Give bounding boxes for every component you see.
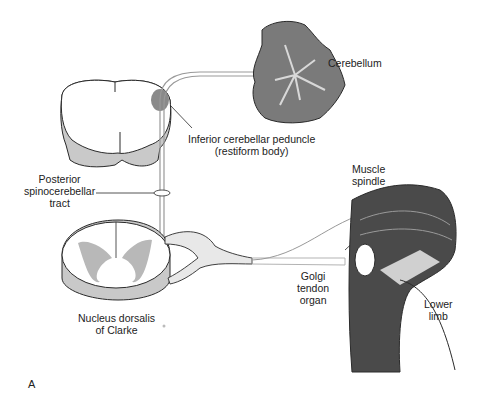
spinal-cord-section [62,220,170,300]
medulla-section [61,80,171,167]
cerebellum [253,21,345,122]
label-nucleus-dorsalis: Nucleus dorsalis of Clarke [78,312,155,336]
label-muscle-spindle: Muscle spindle [352,163,385,187]
label-lower-limb: Lower limb [424,298,453,322]
label-peduncle: Inferior cerebellar peduncle (restiform … [188,133,315,157]
label-cerebellum: Cerebellum [328,57,382,69]
label-spinocerebellar-tract: Posterior spinocerebellar tract [24,173,95,209]
ascending-tract [154,72,265,250]
label-golgi-tendon-organ: Golgi tendon organ [297,270,329,306]
lower-limb [349,185,456,372]
panel-label: A [28,378,35,390]
stray-mark [163,325,166,328]
